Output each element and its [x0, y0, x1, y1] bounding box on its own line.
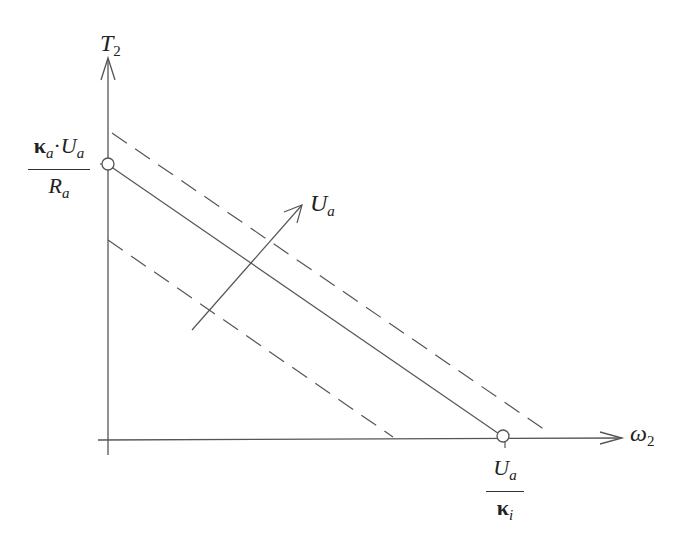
- upper-dashed-line: [112, 133, 548, 432]
- lower-dashed-line: [108, 240, 393, 437]
- x-intercept-denominator: κi: [486, 495, 524, 528]
- y-intercept-label: κa·Ua Ra: [28, 133, 90, 206]
- x-axis: [98, 438, 622, 440]
- fraction-bar: [28, 169, 90, 170]
- nominal-solid-line: [110, 166, 505, 438]
- ua-direction-arrow: [192, 205, 302, 330]
- x-intercept-marker: [497, 430, 509, 442]
- x-axis-label: ω2: [630, 420, 654, 450]
- y-intercept-denominator: Ra: [28, 173, 90, 206]
- fraction-bar: [486, 491, 524, 492]
- diagram-canvas: [0, 0, 686, 537]
- y-intercept-numerator: κa·Ua: [28, 133, 90, 166]
- x-intercept-numerator: Ua: [486, 455, 524, 488]
- y-intercept-marker: [102, 158, 114, 170]
- ua-arrow-label: Ua: [310, 190, 335, 220]
- y-axis-label: T2: [100, 30, 121, 60]
- x-intercept-label: Ua κi: [486, 455, 524, 528]
